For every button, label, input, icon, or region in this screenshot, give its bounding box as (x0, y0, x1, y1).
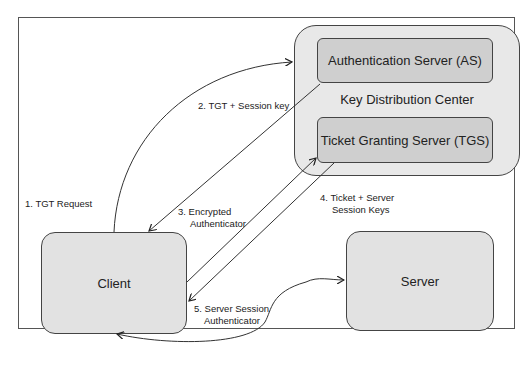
edge-4-label-line2: Session Keys (332, 204, 390, 216)
edge-3-label-line1: 3. Encrypted (178, 206, 231, 218)
edge-4-ticket-session-keys (189, 163, 334, 301)
edge-2-label: 2. TGT + Session key (198, 100, 289, 112)
edge-4-label-line1: 4. Ticket + Server (320, 192, 394, 204)
edge-5-label-line1: 5. Server Session (194, 303, 269, 315)
edge-5-label-line2: Authenticator (204, 315, 260, 327)
edge-1-label: 1. TGT Request (25, 198, 92, 210)
edge-3-label-line2: Authenticator (190, 218, 246, 230)
